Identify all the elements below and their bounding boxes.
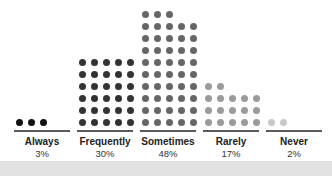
dot-row [142, 56, 202, 68]
dot-icon [154, 35, 161, 42]
dot-icon [142, 83, 149, 90]
dot-icon [142, 23, 149, 30]
dot-icon [79, 71, 86, 78]
dot-row [142, 32, 202, 44]
dot-icon [217, 83, 224, 90]
dot-icon [154, 47, 161, 54]
dot-row [79, 80, 139, 92]
dot-icon [103, 107, 110, 114]
dot-row [142, 104, 202, 116]
dot-icon [166, 47, 173, 54]
dot-icon [178, 119, 185, 126]
dot-icon [142, 59, 149, 66]
dot-icon [103, 83, 110, 90]
dot-icon [154, 95, 161, 102]
dot-icon [166, 95, 173, 102]
column-rarely: Rarely 17% [203, 0, 259, 160]
dot-icon [190, 83, 197, 90]
dot-icon [91, 119, 98, 126]
dot-icon [178, 47, 185, 54]
column-never: Never 2% [266, 0, 322, 160]
dot-icon [91, 95, 98, 102]
dot-row [205, 116, 265, 128]
dot-icon [217, 95, 224, 102]
dot-icon [79, 119, 86, 126]
dot-icon [115, 71, 122, 78]
dot-icon [190, 59, 197, 66]
dot-icon [115, 95, 122, 102]
dot-icon [166, 35, 173, 42]
dot-icon [190, 23, 197, 30]
dot-icon [91, 83, 98, 90]
dot-icon [127, 107, 134, 114]
dot-row [142, 92, 202, 104]
dot-icon [154, 83, 161, 90]
dot-icon [79, 59, 86, 66]
dot-stack [16, 116, 76, 128]
dot-icon [241, 95, 248, 102]
dot-icon [178, 83, 185, 90]
dot-icon [178, 71, 185, 78]
dot-icon [142, 107, 149, 114]
dot-pictogram-chart: Always 3% Frequently 30% Sometimes 48% R… [0, 0, 332, 179]
dot-row [142, 80, 202, 92]
dot-icon [190, 35, 197, 42]
dot-stack [79, 56, 139, 128]
dot-icon [253, 95, 260, 102]
dot-icon [166, 23, 173, 30]
baseline-rule [140, 130, 196, 132]
dot-icon [142, 71, 149, 78]
dot-icon [103, 71, 110, 78]
dot-stack [142, 8, 202, 128]
dot-row [79, 104, 139, 116]
dot-icon [178, 107, 185, 114]
dot-icon [142, 95, 149, 102]
dot-icon [229, 107, 236, 114]
dot-icon [142, 119, 149, 126]
dot-icon [79, 83, 86, 90]
dot-icon [127, 71, 134, 78]
column-always: Always 3% [14, 0, 70, 160]
dot-icon [190, 119, 197, 126]
dot-icon [217, 119, 224, 126]
dot-icon [268, 119, 275, 126]
baseline-rule [14, 130, 70, 132]
dot-icon [229, 119, 236, 126]
dot-icon [205, 95, 212, 102]
dot-row [142, 8, 202, 20]
dot-row [79, 56, 139, 68]
dot-icon [178, 59, 185, 66]
dot-icon [154, 119, 161, 126]
dot-icon [91, 107, 98, 114]
baseline-rule [77, 130, 133, 132]
dot-icon [229, 95, 236, 102]
dot-icon [115, 119, 122, 126]
dot-icon [16, 119, 23, 126]
dot-icon [79, 95, 86, 102]
dot-icon [166, 83, 173, 90]
dot-row [142, 116, 202, 128]
dot-row [79, 92, 139, 104]
dot-row [142, 68, 202, 80]
dot-icon [166, 11, 173, 18]
dot-icon [115, 83, 122, 90]
dot-stack [205, 80, 265, 128]
dot-icon [142, 35, 149, 42]
dot-icon [190, 95, 197, 102]
dot-stack [268, 116, 328, 128]
dot-icon [166, 119, 173, 126]
dot-icon [154, 71, 161, 78]
dot-icon [205, 107, 212, 114]
dot-icon [127, 83, 134, 90]
dot-icon [103, 59, 110, 66]
dot-icon [127, 119, 134, 126]
dot-row [16, 116, 76, 128]
dot-icon [154, 23, 161, 30]
dot-row [205, 80, 265, 92]
dot-icon [190, 107, 197, 114]
dot-icon [28, 119, 35, 126]
column-sometimes: Sometimes 48% [140, 0, 196, 160]
dot-icon [127, 59, 134, 66]
dot-icon [142, 11, 149, 18]
dot-icon [103, 95, 110, 102]
